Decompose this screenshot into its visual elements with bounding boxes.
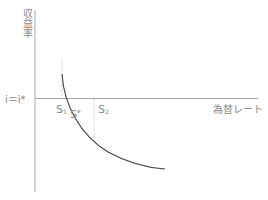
x-axis-label: 為替レート [213, 103, 263, 115]
se-label: Se [70, 107, 81, 121]
s1-label: S1 [56, 103, 67, 116]
diagram-canvas: i＝i* S1 Se S2 為替レート [0, 0, 268, 200]
i-equals-istar-label: i＝i* [5, 94, 26, 105]
expected-return-curve [62, 74, 165, 169]
s2-label: S2 [98, 103, 109, 116]
